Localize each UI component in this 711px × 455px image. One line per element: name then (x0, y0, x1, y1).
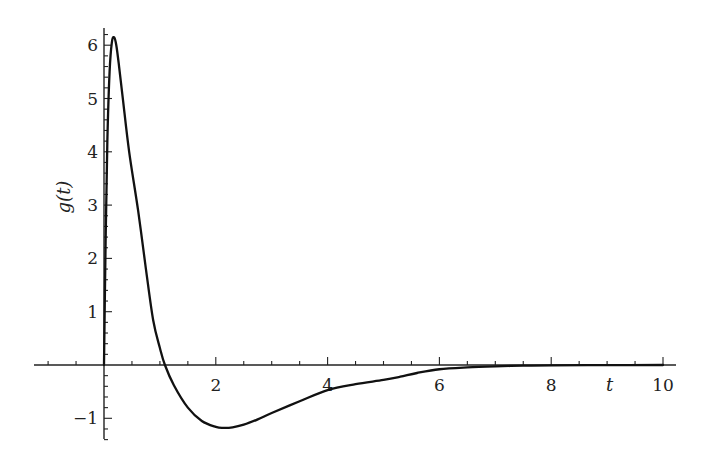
x-axis-label: t (606, 374, 614, 395)
axes: 246810 −1123456 (34, 28, 676, 440)
x-ticks (48, 357, 663, 365)
x-tick-label: 6 (434, 375, 445, 395)
chart: 246810 −1123456 t g(t) (0, 0, 711, 455)
y-tick-label: −1 (73, 408, 98, 428)
y-tick-label: 6 (87, 35, 98, 55)
y-tick-label: 4 (87, 142, 98, 162)
x-tick-label: 8 (546, 375, 557, 395)
x-tick-label: 2 (210, 375, 221, 395)
y-tick-labels: −1123456 (73, 35, 98, 428)
x-tick-labels: 246810 (210, 375, 673, 395)
x-tick-label: 10 (652, 375, 674, 395)
y-tick-label: 3 (87, 195, 98, 215)
y-tick-label: 1 (87, 302, 98, 322)
g-of-t-curve (104, 37, 663, 428)
y-tick-label: 5 (87, 89, 98, 109)
y-tick-label: 2 (87, 248, 98, 268)
y-axis-label: g(t) (53, 181, 74, 214)
